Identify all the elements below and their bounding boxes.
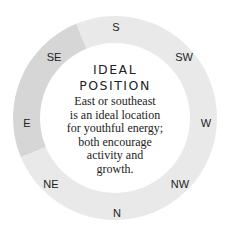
- direction-label-w: W: [201, 118, 211, 129]
- direction-label-nw: NW: [171, 179, 189, 190]
- description-line: both encourage: [50, 136, 180, 150]
- description: East or southeast is an ideal location f…: [50, 95, 180, 176]
- description-line: growth.: [50, 163, 180, 177]
- direction-label-ne: NE: [43, 179, 58, 190]
- title-line-2: POSITION: [50, 78, 180, 94]
- description-line: activity and: [50, 149, 180, 163]
- description-line: for youthful energy;: [50, 122, 180, 136]
- center-text-block: IDEAL POSITION East or southeast is an i…: [50, 62, 180, 176]
- direction-label-e: E: [23, 118, 30, 129]
- description-line: is an ideal location: [50, 109, 180, 123]
- direction-label-s: S: [112, 22, 119, 33]
- direction-label-se: SE: [47, 52, 62, 63]
- direction-label-sw: SW: [175, 52, 193, 63]
- title-line-1: IDEAL: [50, 62, 180, 78]
- direction-label-n: N: [113, 208, 121, 219]
- description-line: East or southeast: [50, 95, 180, 109]
